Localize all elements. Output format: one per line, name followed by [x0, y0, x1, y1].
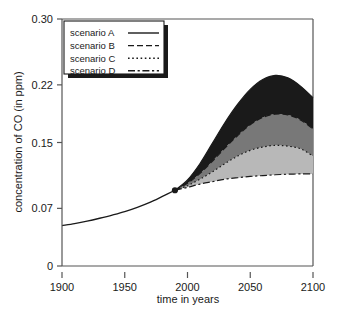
x-axis-title: time in years [157, 293, 220, 305]
legend-label-3: scenario C [70, 53, 116, 64]
y-axis-title: concentration of CO (in ppm) [12, 71, 24, 212]
y-tick-label: 0.30 [32, 13, 53, 25]
chart-legend: scenario Ascenario Bscenario Cscenario D [64, 21, 168, 78]
x-tick-label: 1950 [113, 281, 137, 293]
y-tick-label: 0 [47, 260, 53, 272]
x-tick-label: 2050 [238, 281, 262, 293]
chart-container: 00.070.150.220.30 concentration of CO (i… [0, 0, 340, 311]
y-tick-label: 0.22 [32, 79, 53, 91]
y-tick-label: 0.15 [32, 137, 53, 149]
legend-label-2: scenario B [70, 40, 115, 51]
x-tick-label: 2100 [301, 281, 325, 293]
legend-label-1: scenario A [70, 27, 115, 38]
x-tick-label: 1900 [50, 281, 74, 293]
branch-point-marker [172, 187, 178, 193]
co-concentration-chart: 00.070.150.220.30 concentration of CO (i… [0, 0, 340, 311]
y-tick-label: 0.07 [32, 202, 53, 214]
x-tick-label: 2000 [175, 281, 199, 293]
legend-label-4: scenario D [70, 65, 116, 76]
